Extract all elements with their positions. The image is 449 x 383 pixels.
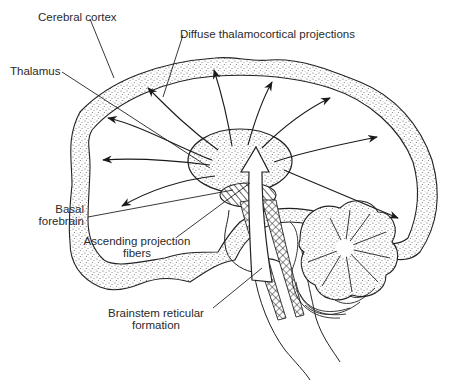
- label-brainstem-rf-2: formation: [100, 319, 212, 331]
- label-basal-forebrain-2: forebrain: [30, 215, 84, 227]
- label-cerebral-cortex: Cerebral cortex: [38, 11, 117, 23]
- brain-illustration: [0, 0, 449, 383]
- label-brainstem-rf-1: Brainstem reticular: [100, 307, 212, 319]
- label-basal-forebrain-1: Basal: [30, 203, 84, 215]
- label-ascending-fibers-1: Ascending projection: [72, 235, 202, 247]
- label-thalamus: Thalamus: [10, 65, 61, 77]
- brain-diagram: Cerebral cortex Diffuse thalamocortical …: [0, 0, 449, 383]
- label-diffuse-projections: Diffuse thalamocortical projections: [180, 28, 355, 40]
- label-ascending-fibers-2: fibers: [72, 247, 202, 259]
- cerebellum: [299, 201, 398, 300]
